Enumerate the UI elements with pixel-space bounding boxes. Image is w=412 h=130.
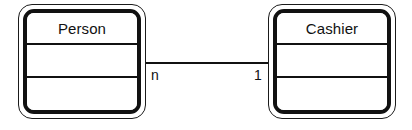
uml-class-cashier-attributes-compartment xyxy=(277,45,387,78)
uml-class-cashier-operations-compartment xyxy=(277,78,387,110)
multiplicity-label-target: 1 xyxy=(254,68,262,82)
uml-class-person-name-label: Person xyxy=(58,21,106,36)
uml-class-person[interactable]: Person xyxy=(18,4,146,119)
uml-class-cashier-name-label: Cashier xyxy=(306,21,358,36)
uml-class-person-attributes-compartment xyxy=(27,45,137,78)
association-line[interactable] xyxy=(146,62,268,64)
multiplicity-label-source: n xyxy=(151,68,159,82)
uml-class-person-attributes-label xyxy=(27,48,32,62)
uml-class-cashier-attributes-label xyxy=(277,48,282,62)
uml-class-person-operations-label xyxy=(27,81,32,95)
uml-class-cashier[interactable]: Cashier xyxy=(268,4,396,119)
uml-class-cashier-operations-label xyxy=(277,81,282,95)
uml-class-cashier-name-compartment: Cashier xyxy=(277,13,387,45)
uml-class-person-name-compartment: Person xyxy=(27,13,137,45)
uml-class-person-inner-frame: Person xyxy=(23,9,141,114)
uml-class-person-operations-compartment xyxy=(27,78,137,110)
uml-class-diagram-canvas: Person n 1 Cashier xyxy=(0,0,412,130)
uml-class-cashier-inner-frame: Cashier xyxy=(273,9,391,114)
